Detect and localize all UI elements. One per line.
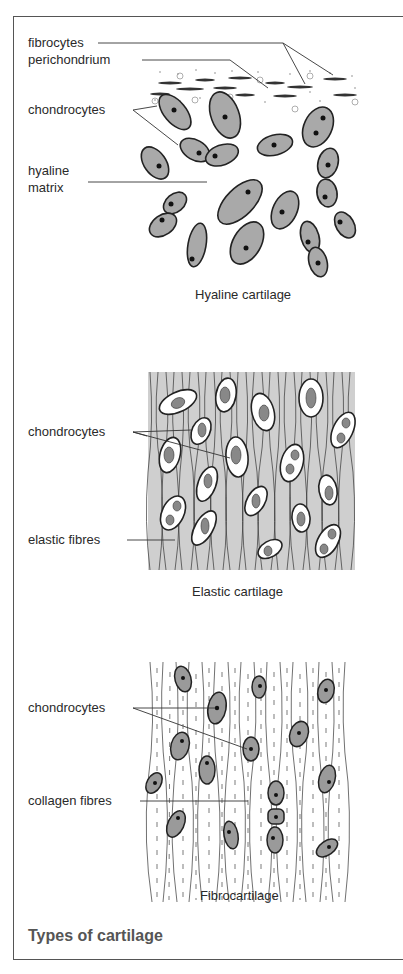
label-hyaline: hyaline [28, 163, 69, 178]
label-chondrocytes-elastic: chondrocytes [28, 424, 105, 439]
collagen-dashes [157, 668, 339, 900]
caption-hyaline: Hyaline cartilage [195, 287, 291, 302]
label-elastic-fibres: elastic fibres [28, 532, 100, 547]
figure-title: Types of cartilage [28, 927, 163, 945]
hyaline-panel [88, 43, 360, 279]
label-fibrocytes: fibrocytes [28, 35, 84, 50]
label-collagen-fibres: collagen fibres [28, 793, 112, 808]
label-matrix: matrix [28, 180, 63, 195]
label-chondrocytes-fibro: chondrocytes [28, 700, 105, 715]
elastic-panel [127, 372, 360, 570]
label-chondrocytes-hyaline: chondrocytes [28, 102, 105, 117]
caption-elastic: Elastic cartilage [192, 584, 283, 599]
caption-fibrocartilage: Fibrocartilage [200, 888, 279, 903]
fibro-panel [133, 662, 349, 902]
label-perichondrium: perichondrium [28, 52, 110, 67]
hyaline-chondrocytes [136, 88, 360, 279]
